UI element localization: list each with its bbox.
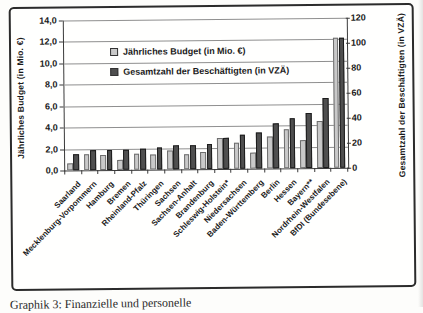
left-tick-label: 14,0 [15,15,57,25]
x-tick-mark [181,169,182,173]
right-tick-label: 0 [352,162,374,172]
bar-employees [339,38,346,168]
x-tick-mark [297,168,298,172]
bar-budget [67,163,73,171]
bar-budget [217,138,223,169]
right-tick-mark [346,43,350,44]
plot-area: Jährliches Budget (in Mio. €)Gesamtzahl … [63,18,349,172]
legend-swatch [110,48,118,56]
legend-swatch [110,68,118,76]
left-tick-mark [59,20,63,21]
bar-budget [134,154,140,170]
bar-employees [73,154,79,170]
bar-employees [323,98,329,168]
right-tick-mark [347,118,351,119]
right-tick-label: 120 [351,12,373,22]
right-tick-label: 100 [351,37,373,47]
right-tick-label: 60 [351,87,373,97]
gridline [65,103,348,107]
x-axis-category-labels: SaarlandMecklenburg-VorpommernHamburgBre… [11,5,412,9]
bar-budget [250,153,256,169]
right-tick-mark [347,143,351,144]
x-tick-mark [281,168,282,172]
bar-budget [150,155,156,170]
legend-entry: Jährliches Budget (in Mio. €) [110,45,289,57]
gridlines [64,18,347,21]
x-tick-mark [347,168,348,172]
bar-budget [167,150,173,169]
x-tick-mark [131,170,132,174]
x-tick-mark [331,168,332,172]
gridline [64,39,347,43]
right-axis-tick-labels: 120100806040200 [351,17,374,167]
figure-caption: Graphik 3: Finanzielle und personelle [10,292,420,313]
x-tick-mark [264,168,265,172]
x-tick-mark [147,170,148,174]
gridline [64,18,347,22]
chart-frame: Jährliches Budget (in Mio. €) Gesamtzahl… [9,3,417,291]
left-tick-mark [60,128,64,129]
axis-ticks [11,5,412,9]
bar-employees [140,148,146,169]
bar-budget [234,143,240,169]
legend-label: Jährliches Budget (in Mio. €) [123,46,246,57]
left-tick-label: 12,0 [15,37,57,47]
right-tick-label: 20 [352,137,374,147]
left-tick-mark [59,85,63,86]
bar-employees [240,135,246,169]
bar-budget [200,152,206,169]
x-tick-mark [64,170,65,174]
x-tick-mark [314,168,315,172]
bar-budget [317,121,323,168]
left-tick-label: 2,0 [16,144,58,154]
x-tick-mark [214,169,215,173]
bar-employees [306,113,312,168]
left-tick-label: 10,0 [15,58,57,68]
bar-budget [184,154,190,169]
bar-employees [190,145,196,169]
x-tick-mark [97,170,98,174]
left-tick-mark [59,63,63,64]
bar-employees [123,150,129,170]
left-tick-label: 4,0 [16,123,58,133]
scan-shadow-edge [418,0,423,307]
bar-budget [267,136,273,168]
bar-employees [223,138,229,169]
x-tick-mark [247,169,248,173]
legend-entry: Gesamtzahl der Beschäftigten (in VZÄ) [110,65,289,77]
right-tick-mark [346,18,350,19]
right-tick-mark [346,68,350,69]
x-tick-mark [114,170,115,174]
bar-budget [101,155,107,170]
left-tick-label: 0,0 [16,165,58,175]
bar-employees [173,146,179,170]
x-tick-mark [231,169,232,173]
left-tick-mark [60,149,64,150]
x-tick-mark [197,169,198,173]
bar-budget [283,130,289,169]
right-tick-label: 80 [351,62,373,72]
right-tick-mark [346,93,350,94]
right-axis-title: Gesamtzahl der Beschäftigten (in VZÄ) [396,7,408,183]
left-tick-mark [60,106,64,107]
left-tick-label: 6,0 [16,101,58,111]
bar-budget [300,140,306,168]
bar-budget [84,154,90,170]
x-tick-mark [164,169,165,173]
bar-employees [206,144,212,169]
left-tick-mark [59,42,63,43]
x-tick-mark [81,170,82,174]
bar-employees [90,150,96,170]
bar-employees [289,118,295,168]
right-tick-label: 40 [352,112,374,122]
left-axis-tick-labels: 14,012,010,08,06,04,02,00,0 [15,20,58,170]
bar-employees [107,150,113,170]
bar-budget [117,160,123,170]
left-tick-label: 8,0 [15,80,57,90]
legend: Jährliches Budget (in Mio. €)Gesamtzahl … [110,45,289,87]
bar-employees [256,132,262,168]
bar-employees [273,123,279,168]
bar-employees [157,147,163,170]
legend-label: Gesamtzahl der Beschäftigten (in VZÄ) [123,65,289,77]
